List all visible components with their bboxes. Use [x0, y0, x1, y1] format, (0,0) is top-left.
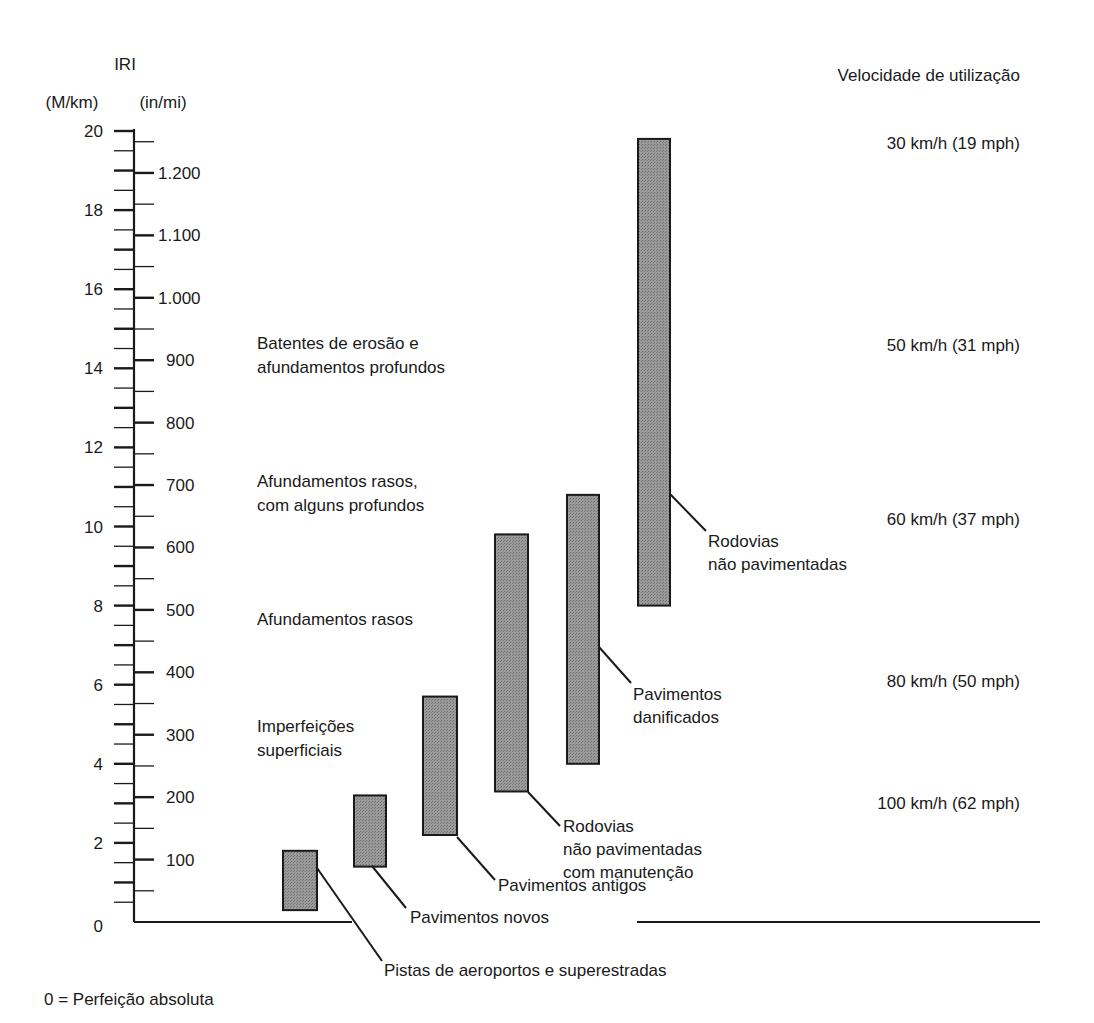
left-tick-label: 4 [94, 755, 103, 774]
leader-line [457, 837, 495, 880]
range-bar: Rodoviasnão pavimentadas [638, 139, 847, 606]
left-tick-label: 16 [84, 280, 103, 299]
leader-line [317, 868, 382, 961]
left-tick-label: 20 [84, 122, 103, 141]
left-tick-label: 18 [84, 201, 103, 220]
leader-line [599, 647, 631, 683]
right-tick-label: 400 [166, 663, 194, 682]
bar-label: não pavimentadas [563, 840, 702, 859]
right-tick-label: 100 [166, 851, 194, 870]
right-tick-label: 1.000 [158, 289, 201, 308]
bar-label: com manutenção [563, 863, 693, 882]
bar-rect [354, 795, 386, 866]
right-axis-unit: (in/mi) [139, 93, 186, 112]
condition-label: afundamentos profundos [257, 358, 445, 377]
baseline-note: 0 = Perfeição absoluta [44, 990, 214, 1009]
speed-header: Velocidade de utilização [838, 66, 1020, 85]
right-tick-label: 700 [166, 476, 194, 495]
speed-label: 30 km/h (19 mph) [887, 134, 1020, 153]
y-axis: 0246810121416182010020030040050060070080… [84, 122, 1040, 936]
left-tick-label: 12 [84, 438, 103, 457]
left-tick-label: 2 [94, 834, 103, 853]
right-tick-label: 600 [166, 538, 194, 557]
speed-labels: 30 km/h (19 mph)50 km/h (31 mph)60 km/h … [877, 134, 1020, 813]
chart-title: IRI [114, 55, 136, 74]
right-tick-label: 900 [166, 351, 194, 370]
speed-label: 80 km/h (50 mph) [887, 672, 1020, 691]
bar-label: Rodovias [708, 532, 779, 551]
bar-rect [567, 495, 599, 764]
bar-rect [638, 139, 670, 606]
speed-label: 100 km/h (62 mph) [877, 794, 1020, 813]
left-tick-label: 0 [94, 917, 103, 936]
left-tick-label: 10 [84, 518, 103, 537]
right-tick-label: 300 [166, 726, 194, 745]
bar-rect [423, 697, 457, 835]
condition-label: Afundamentos rasos [257, 610, 413, 629]
left-axis-unit: (M/km) [46, 93, 99, 112]
iri-chart: IRI (M/km) (in/mi) Velocidade de utiliza… [0, 0, 1094, 1023]
right-tick-label: 200 [166, 788, 194, 807]
condition-labels: Batentes de erosão eafundamentos profund… [257, 334, 445, 761]
condition-label: Batentes de erosão e [257, 334, 419, 353]
leader-line [372, 866, 406, 908]
condition-label: superficiais [257, 741, 342, 760]
bar-rect [283, 851, 317, 910]
bar-label: Rodovias [563, 817, 634, 836]
bar-label: danificados [633, 708, 719, 727]
condition-label: Imperfeições [257, 717, 354, 736]
left-tick-label: 8 [94, 597, 103, 616]
right-tick-label: 500 [166, 601, 194, 620]
speed-label: 50 km/h (31 mph) [887, 336, 1020, 355]
condition-label: com alguns profundos [257, 496, 424, 515]
right-tick-label: 800 [166, 414, 194, 433]
right-tick-label: 1.100 [158, 226, 201, 245]
right-tick-label: 1.200 [158, 164, 201, 183]
condition-label: Afundamentos rasos, [257, 472, 418, 491]
leader-line [670, 494, 706, 531]
range-bars: Pistas de aeroportos e superestradasPavi… [283, 139, 847, 980]
bar-label: não pavimentadas [708, 555, 847, 574]
leader-line [528, 792, 560, 826]
bar-rect [495, 534, 528, 791]
bar-label: Pistas de aeroportos e superestradas [384, 961, 667, 980]
left-tick-label: 14 [84, 359, 103, 378]
left-tick-label: 6 [94, 676, 103, 695]
bar-label: Pavimentos novos [410, 908, 549, 927]
bar-label: Pavimentos [633, 685, 722, 704]
speed-label: 60 km/h (37 mph) [887, 510, 1020, 529]
